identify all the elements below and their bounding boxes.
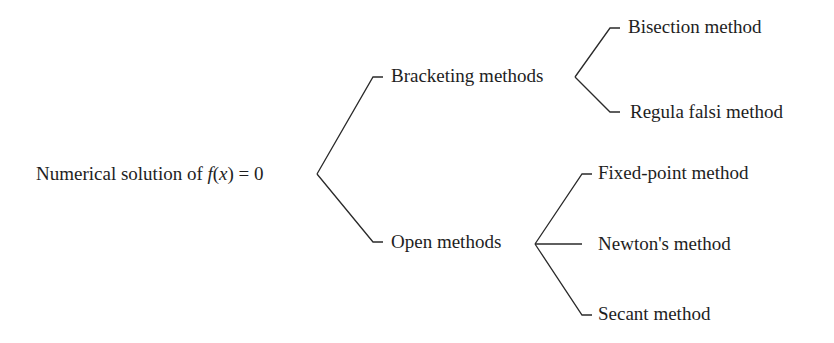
root-label-x: x	[219, 163, 227, 184]
node-open-methods: Open methods	[391, 231, 501, 253]
edge-open-fixedpoint	[535, 174, 592, 244]
node-fixed-point-method: Fixed-point method	[598, 162, 748, 184]
node-secant-method: Secant method	[598, 303, 710, 325]
node-bisection-method: Bisection method	[628, 16, 762, 38]
edge-root-open	[317, 174, 383, 242]
node-newtons-method: Newton's method	[598, 233, 731, 255]
edge-open-secant	[535, 244, 592, 315]
root-label-close: ) = 0	[228, 163, 264, 184]
node-regula-falsi-method: Regula falsi method	[630, 101, 783, 123]
root-label-prefix: Numerical solution of	[36, 163, 208, 184]
edge-bracketing-regula	[575, 77, 620, 112]
edge-bracketing-bisection	[575, 28, 620, 77]
edge-root-bracketing	[317, 77, 383, 174]
root-node: Numerical solution of f(x) = 0	[36, 163, 264, 185]
node-bracketing-methods: Bracketing methods	[391, 65, 544, 87]
